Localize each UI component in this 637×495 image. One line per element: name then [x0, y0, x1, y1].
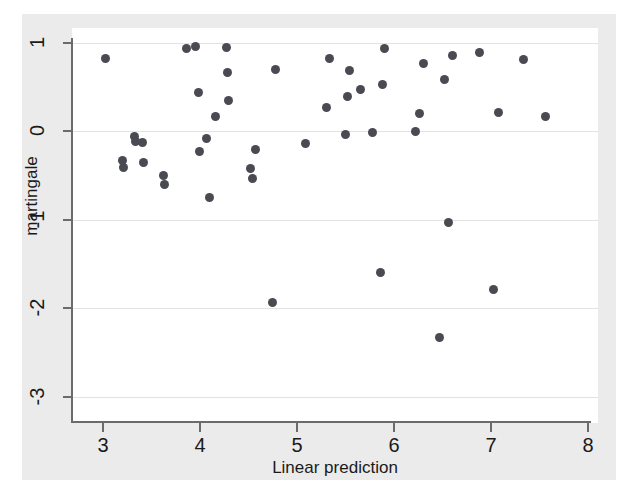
- data-point: [159, 171, 168, 180]
- y-axis-tick: [63, 130, 72, 132]
- data-point: [356, 85, 365, 94]
- scatter-plot-figure: 10-1-2-3 345678 martingale Linear predic…: [0, 0, 637, 495]
- data-point: [419, 59, 428, 68]
- x-axis-ticklabel: 5: [277, 434, 317, 457]
- data-point: [119, 163, 128, 172]
- data-point: [205, 193, 214, 202]
- x-axis-ticklabel: 8: [568, 434, 608, 457]
- data-point: [223, 68, 232, 77]
- data-point: [376, 268, 385, 277]
- x-axis-ticklabel: 4: [180, 434, 220, 457]
- data-point: [380, 44, 389, 53]
- data-point: [325, 54, 334, 63]
- gridline-y: [72, 308, 598, 309]
- data-point: [195, 147, 204, 156]
- x-axis-tick: [296, 423, 298, 432]
- x-axis-tick: [393, 423, 395, 432]
- data-point: [448, 51, 457, 60]
- y-axis-ticklabel: -3: [26, 376, 49, 416]
- gridline-y: [72, 397, 598, 398]
- x-axis-tick: [587, 423, 589, 432]
- y-axis-ticklabel: 1: [26, 22, 49, 62]
- gridline-y: [72, 220, 598, 221]
- plot-area: [72, 28, 598, 423]
- y-axis-line: [71, 38, 73, 423]
- y-axis-ticklabel: -2: [26, 288, 49, 328]
- data-point: [194, 88, 203, 97]
- y-axis-tick: [63, 307, 72, 309]
- data-point: [222, 43, 231, 52]
- data-point: [322, 103, 331, 112]
- data-point: [519, 55, 528, 64]
- x-axis-tick: [102, 423, 104, 432]
- y-axis-tick: [63, 42, 72, 44]
- x-axis-line: [71, 421, 591, 423]
- gridline-y: [72, 131, 598, 132]
- y-axis-tick: [63, 396, 72, 398]
- x-axis-tick: [199, 423, 201, 432]
- data-point: [475, 48, 484, 57]
- data-point: [191, 42, 200, 51]
- x-axis-ticklabel: 7: [471, 434, 511, 457]
- data-point: [343, 92, 352, 101]
- x-axis-ticklabel: 3: [83, 434, 123, 457]
- data-point: [415, 109, 424, 118]
- x-axis-ticklabel: 6: [374, 434, 414, 457]
- data-point: [341, 130, 350, 139]
- x-axis-title: Linear prediction: [72, 458, 598, 478]
- data-point: [224, 96, 233, 105]
- x-axis-tick: [490, 423, 492, 432]
- data-point: [246, 164, 255, 173]
- y-axis-tick: [63, 219, 72, 221]
- data-point: [251, 145, 260, 154]
- data-point: [435, 333, 444, 342]
- gridline-y: [72, 43, 598, 44]
- data-point: [271, 65, 280, 74]
- data-point: [444, 218, 453, 227]
- y-axis-title: martingale: [22, 126, 42, 266]
